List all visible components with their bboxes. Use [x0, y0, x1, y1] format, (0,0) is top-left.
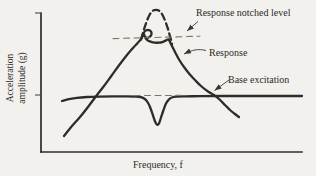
response-curve — [64, 30, 239, 136]
y-axis-label-line1: Acceleration — [5, 53, 15, 102]
base-excitation-arrow-icon — [215, 80, 230, 91]
notched-level-line-curve — [113, 36, 200, 38]
notched-level-label: Response notched level — [196, 7, 291, 18]
base-excitation-label: Base excitation — [228, 74, 289, 85]
figure-svg: Response notched level Response Base exc… — [0, 0, 316, 176]
base-excitation-curve — [62, 96, 302, 125]
response-arrow-icon — [184, 50, 206, 54]
labels: Response notched level Response Base exc… — [5, 7, 291, 170]
y-axis-label-line2: amplitude (g) — [17, 52, 28, 103]
figure: Response notched level Response Base exc… — [0, 0, 316, 176]
x-axis-label: Frequency, f — [133, 159, 184, 170]
notched-level-arrow-icon — [187, 22, 198, 32]
series-layer — [62, 10, 302, 136]
response-label: Response — [209, 47, 248, 58]
